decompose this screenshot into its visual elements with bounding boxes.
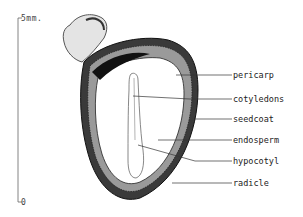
seed-body <box>81 38 198 199</box>
label-cotyledons: cotyledons <box>233 94 284 104</box>
label-hypocotyl: hypocotyl <box>233 156 279 166</box>
label-radicle: radicle <box>233 178 269 188</box>
scale-bar <box>18 18 22 202</box>
label-seedcoat: seedcoat <box>233 114 274 124</box>
label-endosperm: endosperm <box>233 135 279 145</box>
label-pericarp: pericarp <box>233 70 274 80</box>
scale-top-label: 5mm. <box>21 14 42 23</box>
scale-bottom-label: 0 <box>21 198 26 207</box>
